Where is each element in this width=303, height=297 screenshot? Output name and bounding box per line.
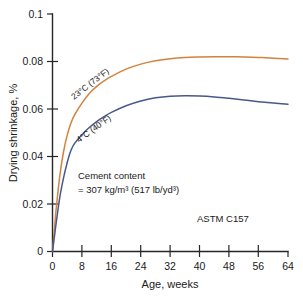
y-axis-title: Drying shrinkage, %	[7, 84, 19, 183]
y-tick-label: 0.06	[23, 103, 44, 115]
x-tick-label: 64	[282, 260, 294, 272]
x-axis-title: Age, weeks	[142, 278, 199, 290]
cement-content-line2: = 307 kg/m³ (517 lb/yd³)	[78, 184, 179, 195]
x-tick-label: 0	[50, 260, 56, 272]
x-tick-label: 24	[135, 260, 147, 272]
y-tick-labels: 0 0.02 0.04 0.06 0.08 0.1	[23, 8, 44, 257]
chart-canvas: 0 0.02 0.04 0.06 0.08 0.1 0 8 16 24 32 4…	[0, 0, 303, 297]
y-tick-label: 0.1	[28, 8, 43, 20]
x-tick-label: 16	[105, 260, 117, 272]
x-tick-label: 56	[252, 260, 264, 272]
curve-label-4c: 4°C (40°F)	[74, 113, 113, 145]
x-tick-label: 32	[164, 260, 176, 272]
y-tick-label: 0.08	[23, 55, 44, 67]
standard-note: ASTM C157	[197, 213, 249, 224]
x-tick-label: 48	[223, 260, 235, 272]
x-tick-label: 40	[194, 260, 206, 272]
drying-shrinkage-chart: 0 0.02 0.04 0.06 0.08 0.1 0 8 16 24 32 4…	[0, 0, 303, 297]
x-tick-labels: 0 8 16 24 32 40 48 56 64	[50, 260, 294, 272]
cement-content-line1: Cement content	[78, 170, 145, 181]
y-tick-label: 0.04	[23, 150, 44, 162]
y-tick-label: 0.02	[23, 198, 44, 210]
x-tick-label: 8	[79, 260, 85, 272]
curve-label-23c: 23°C (73°F)	[69, 66, 111, 102]
y-tick-label: 0	[37, 245, 43, 257]
